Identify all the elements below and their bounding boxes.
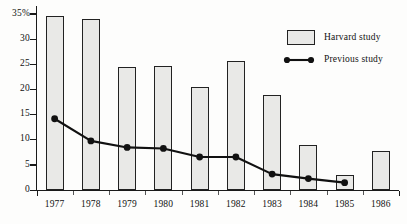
y-tick-label-15: 15 xyxy=(2,108,30,118)
x-label-1985: 1985 xyxy=(327,199,363,209)
bar-1978 xyxy=(82,19,100,190)
x-label-1983: 1983 xyxy=(254,199,290,209)
chart-legend: Harvard study Previous study xyxy=(283,26,403,70)
x-tick-6 xyxy=(254,191,255,195)
y-tick-15 xyxy=(30,114,36,115)
legend-label-harvard-study: Harvard study xyxy=(324,32,381,42)
bar-1980 xyxy=(154,66,172,190)
bar-1985 xyxy=(336,175,354,190)
y-tick-20 xyxy=(30,89,36,90)
x-tick-7 xyxy=(290,191,291,195)
legend-bar-swatch-icon xyxy=(287,30,315,45)
x-label-1980: 1980 xyxy=(145,199,181,209)
bar-1979 xyxy=(118,67,136,190)
x-label-1984: 1984 xyxy=(290,199,326,209)
y-tick-25 xyxy=(30,64,36,65)
legend-line-dot-icon xyxy=(283,52,315,67)
y-tick-10 xyxy=(30,139,36,140)
chart-container: 05101520253035% 197719781979198019811982… xyxy=(0,0,407,224)
x-tick-0 xyxy=(37,191,38,196)
y-axis-labels: 05101520253035% xyxy=(0,0,30,224)
y-tick-label-0: 0 xyxy=(2,184,30,194)
x-tick-8 xyxy=(327,191,328,195)
y-tick-label-30: 30 xyxy=(2,33,30,43)
legend-item-previous-study: Previous study xyxy=(283,48,403,70)
y-tick-0 xyxy=(30,190,36,191)
x-tick-3 xyxy=(145,191,146,195)
x-label-1986: 1986 xyxy=(363,199,399,209)
y-tick-label-35: 35% xyxy=(2,8,30,18)
x-tick-1 xyxy=(73,191,74,195)
y-tick-30 xyxy=(30,39,36,40)
x-tick-5 xyxy=(218,191,219,195)
y-tick-label-10: 10 xyxy=(2,133,30,143)
x-tick-2 xyxy=(109,191,110,195)
legend-item-harvard-study: Harvard study xyxy=(283,26,403,48)
bar-1984 xyxy=(299,145,317,190)
x-tick-10 xyxy=(399,191,400,196)
x-label-1977: 1977 xyxy=(37,199,73,209)
y-tick-35 xyxy=(30,13,36,14)
x-label-1982: 1982 xyxy=(218,199,254,209)
x-label-1978: 1978 xyxy=(73,199,109,209)
bar-1981 xyxy=(191,87,209,191)
bar-1983 xyxy=(263,95,281,191)
x-label-1979: 1979 xyxy=(109,199,145,209)
y-tick-label-20: 20 xyxy=(2,83,30,93)
x-tick-9 xyxy=(363,191,364,195)
x-tick-4 xyxy=(182,191,183,195)
x-label-1981: 1981 xyxy=(182,199,218,209)
bar-1982 xyxy=(227,61,245,190)
y-axis-line xyxy=(36,6,37,191)
bar-1986 xyxy=(372,151,390,190)
legend-label-previous-study: Previous study xyxy=(324,54,383,64)
y-tick-label-25: 25 xyxy=(2,58,30,68)
bar-1977 xyxy=(46,16,64,190)
y-tick-5 xyxy=(30,164,36,165)
y-tick-label-5: 5 xyxy=(2,159,30,169)
